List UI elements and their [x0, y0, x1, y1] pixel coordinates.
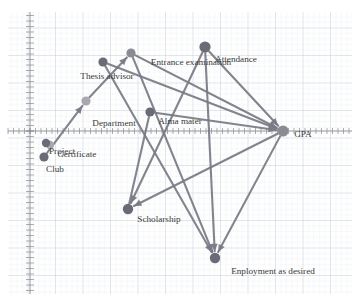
graph-node-gpa[interactable] [277, 125, 288, 136]
graph-edge [129, 117, 149, 203]
node-label-scholarship: Scholarship [137, 214, 181, 224]
node-label-employment: Enployment as desired [231, 266, 315, 276]
graph-node-thesis_advisor[interactable] [98, 57, 107, 66]
graph-edge [205, 53, 214, 251]
node-label-alma_mater: Alma mater [158, 116, 202, 126]
graph-plot: Thesis advisorEntrance examinationAttend… [0, 0, 360, 304]
graph-node-department[interactable] [81, 96, 90, 105]
graph-edge [134, 134, 278, 206]
node-label-thesis_advisor: Thesis advisor [80, 71, 133, 81]
graph-node-alma_mater[interactable] [145, 107, 154, 116]
node-label-department: Department [92, 118, 136, 128]
node-labels-group: Thesis advisorEntrance examinationAttend… [46, 54, 315, 276]
graph-node-entrance_examination[interactable] [126, 48, 135, 57]
node-label-attendance: Attendance [215, 54, 257, 64]
graph-node-club[interactable] [39, 152, 48, 161]
node-label-gpa: GPA [294, 129, 312, 139]
graph-node-employment[interactable] [210, 253, 220, 263]
graph-figure: Thesis advisorEntrance examinationAttend… [0, 0, 360, 304]
graph-node-attendance[interactable] [199, 41, 210, 52]
graph-edge [218, 136, 280, 252]
node-label-club: Club [46, 164, 64, 174]
graph-node-scholarship[interactable] [123, 204, 133, 214]
graph-edge [106, 66, 212, 252]
node-label-project: Project [49, 146, 75, 156]
